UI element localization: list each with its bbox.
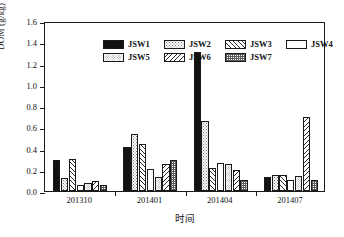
legend-swatch-jsw3-icon xyxy=(225,40,246,49)
legend-item-jsw5: JSW5 xyxy=(103,53,164,62)
legend-swatch-jsw2-icon xyxy=(164,40,185,49)
y-axis-tick-label: 1.0 xyxy=(26,82,37,91)
legend-label: JSW2 xyxy=(189,40,211,49)
bar-jsw5-201401 xyxy=(155,177,162,191)
bar-jsw4-201310 xyxy=(77,185,84,191)
plot-frame: JSW1JSW2JSW3JSW4JSW5JSW6JSW7 xyxy=(44,22,325,192)
legend-label: JSW1 xyxy=(128,40,150,49)
legend-item-jsw6: JSW6 xyxy=(164,53,225,62)
legend-swatch-jsw5-icon xyxy=(103,53,124,62)
y-axis-tick-label: 0.2 xyxy=(26,167,37,176)
legend-item-jsw7: JSW7 xyxy=(225,53,286,62)
bar-jsw6-201401 xyxy=(162,164,169,191)
bar-jsw4-201407 xyxy=(287,180,294,191)
bar-jsw2-201407 xyxy=(272,175,279,191)
x-axis-labels: 201310201401201404201407 xyxy=(44,196,325,210)
legend-row: JSW1JSW2JSW3JSW4 xyxy=(103,39,344,50)
y-axis-tick-label: 0.8 xyxy=(26,103,37,112)
y-axis-tick xyxy=(40,151,45,152)
bar-jsw7-201407 xyxy=(311,180,318,191)
bar-jsw7-201310 xyxy=(100,185,107,191)
bar-jsw2-201310 xyxy=(61,178,68,191)
y-axis-tick-label: 0.6 xyxy=(26,124,37,133)
legend-item-jsw3: JSW3 xyxy=(225,40,286,49)
legend-row: JSW5JSW6JSW7 xyxy=(103,52,344,63)
bar-jsw6-201407 xyxy=(303,117,310,191)
bar-jsw3-201401 xyxy=(139,144,146,191)
x-axis-tick-label: 201310 xyxy=(66,196,92,205)
bar-jsw3-201407 xyxy=(279,175,286,191)
chart-legend: JSW1JSW2JSW3JSW4JSW5JSW6JSW7 xyxy=(103,39,344,65)
y-axis-tick xyxy=(40,66,45,67)
bar-jsw6-201310 xyxy=(92,181,99,191)
bar-jsw2-201404 xyxy=(201,121,208,191)
bar-jsw3-201404 xyxy=(209,168,216,191)
y-axis-tick xyxy=(40,108,45,109)
y-axis-tick-label: 0.0 xyxy=(26,188,37,197)
bar-jsw4-201401 xyxy=(147,169,154,191)
bar-chart: 0.00.20.40.60.81.01.21.41.6 DOM (g/kg) J… xyxy=(0,0,344,237)
bar-jsw2-201401 xyxy=(131,134,138,191)
legend-swatch-jsw6-icon xyxy=(164,53,185,62)
y-axis-tick xyxy=(40,193,45,194)
legend-label: JSW3 xyxy=(250,40,272,49)
bar-jsw5-201310 xyxy=(84,183,91,192)
bar-jsw1-201310 xyxy=(53,160,60,191)
x-axis-title: 时间 xyxy=(44,211,325,225)
legend-swatch-jsw1-icon xyxy=(103,40,124,49)
y-axis-tick-label: 1.6 xyxy=(26,18,37,27)
bar-jsw1-201404 xyxy=(194,52,201,191)
y-axis-tick xyxy=(40,44,45,45)
legend-label: JSW7 xyxy=(250,53,272,62)
y-axis-title: DOM (g/kg) xyxy=(0,0,6,50)
x-axis-tick-label: 201404 xyxy=(207,196,233,205)
bar-jsw7-201404 xyxy=(240,180,247,191)
legend-swatch-jsw4-icon xyxy=(286,40,307,49)
y-axis-tick-label: 1.2 xyxy=(26,60,37,69)
y-axis-tick xyxy=(40,129,45,130)
bar-jsw4-201404 xyxy=(217,163,224,191)
bar-jsw3-201310 xyxy=(69,159,76,191)
legend-label: JSW5 xyxy=(128,53,150,62)
y-axis-tick xyxy=(40,23,45,24)
bar-jsw1-201401 xyxy=(123,147,130,191)
x-axis-tick-label: 201407 xyxy=(277,196,303,205)
bar-jsw6-201404 xyxy=(233,170,240,191)
bar-jsw5-201404 xyxy=(225,164,232,191)
legend-label: JSW6 xyxy=(189,53,211,62)
bar-jsw7-201401 xyxy=(170,160,177,191)
y-axis-tick-label: 1.4 xyxy=(26,39,37,48)
legend-item-jsw1: JSW1 xyxy=(103,40,164,49)
bar-jsw5-201407 xyxy=(295,176,302,191)
bar-jsw1-201407 xyxy=(264,177,271,191)
y-axis-tick-label: 0.4 xyxy=(26,145,37,154)
legend-label: JSW4 xyxy=(311,40,333,49)
legend-item-jsw2: JSW2 xyxy=(164,40,225,49)
x-axis-tick-label: 201401 xyxy=(137,196,163,205)
y-axis-tick xyxy=(40,87,45,88)
legend-item-jsw4: JSW4 xyxy=(286,40,344,49)
legend-swatch-jsw7-icon xyxy=(225,53,246,62)
y-axis-tick xyxy=(40,172,45,173)
y-axis-labels: 0.00.20.40.60.81.01.21.41.6 xyxy=(0,22,44,192)
